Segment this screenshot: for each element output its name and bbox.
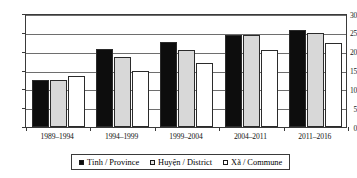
bar — [96, 49, 113, 127]
y-tick-mark — [22, 89, 25, 90]
legend-swatch-icon — [79, 160, 84, 165]
x-tick-label: 2011–2016 — [283, 132, 347, 141]
y-tick-label: 20 — [337, 48, 357, 57]
bar-chart: 30 25 20 15 10 5 0 1989–19941994–1999199… — [0, 0, 357, 178]
x-tick-label: 1989–1994 — [25, 132, 89, 141]
bar — [307, 33, 324, 127]
y-tick-label: 25 — [337, 29, 357, 38]
legend-label: Tỉnh / Province — [87, 158, 139, 167]
bar — [50, 80, 67, 128]
chart-legend: Tỉnh / ProvinceHuyện / DistrictXã / Comm… — [71, 154, 290, 170]
bar — [243, 35, 260, 127]
bar-group — [26, 15, 90, 127]
bar — [225, 35, 242, 127]
x-tick-mark — [155, 127, 156, 131]
bar — [261, 50, 278, 127]
y-tick-mark — [22, 108, 25, 109]
x-tick-mark — [219, 127, 220, 131]
y-tick-mark — [22, 71, 25, 72]
y-tick-mark — [22, 52, 25, 53]
y-tick-mark — [22, 127, 25, 128]
bar-group — [219, 15, 283, 127]
x-tick-mark — [26, 127, 27, 131]
bars-layer — [26, 15, 346, 127]
bar-group — [155, 15, 219, 127]
y-tick-label: 30 — [337, 11, 357, 20]
legend-entry: Tỉnh / Province — [79, 158, 139, 167]
y-tick-label: 15 — [337, 67, 357, 76]
bar — [160, 42, 177, 128]
legend-label: Huyện / District — [158, 158, 212, 167]
x-tick-label: 1994–1999 — [89, 132, 153, 141]
x-tick-mark — [90, 127, 91, 131]
y-tick-label: 10 — [337, 86, 357, 95]
y-tick-mark — [22, 33, 25, 34]
bar — [132, 71, 149, 127]
x-tick-mark — [284, 127, 285, 131]
x-tick-label: 2004–2011 — [218, 132, 282, 141]
legend-swatch-icon — [223, 160, 228, 165]
legend-entry: Xã / Commune — [223, 158, 282, 167]
bar — [114, 57, 131, 127]
bar — [68, 76, 85, 127]
bar — [289, 30, 306, 127]
bar-group — [90, 15, 154, 127]
bar — [32, 80, 49, 127]
plot-area — [25, 14, 347, 128]
bar — [196, 63, 213, 127]
x-tick-label: 1999–2004 — [154, 132, 218, 141]
y-tick-label: 5 — [337, 105, 357, 114]
legend-swatch-icon — [150, 160, 155, 165]
bar — [178, 50, 195, 127]
legend-label: Xã / Commune — [231, 158, 282, 167]
legend-entry: Huyện / District — [150, 158, 212, 167]
y-tick-mark — [22, 14, 25, 15]
